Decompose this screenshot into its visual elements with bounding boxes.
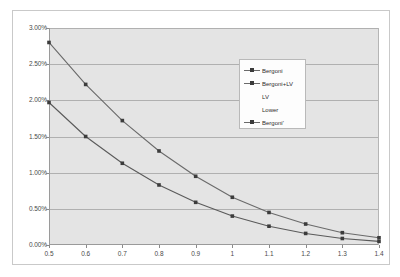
legend-item[interactable]: Bergoni+LV: [244, 77, 301, 90]
data-point-marker: [47, 101, 51, 105]
data-point-marker: [377, 240, 381, 244]
data-point-marker: [304, 222, 308, 226]
y-axis-tick-label: 2.50%: [13, 61, 47, 68]
data-point-marker: [377, 236, 381, 240]
x-axis-tick-mark: [379, 245, 380, 248]
series-line: [49, 103, 379, 242]
plot-area: [49, 28, 379, 245]
data-point-marker: [121, 161, 125, 165]
data-point-marker: [194, 201, 198, 205]
legend-item-label: Lower: [262, 107, 278, 113]
data-point-marker: [267, 224, 271, 228]
chart-card: 0.00%0.50%1.00%1.50%2.00%2.50%3.00% 0.50…: [12, 10, 390, 265]
legend-item-label: Bergoni+LV: [262, 81, 293, 87]
x-axis-tick-mark: [122, 245, 123, 248]
legend-marker-icon: [244, 79, 260, 88]
legend-marker-icon: [244, 66, 260, 75]
legend-item[interactable]: LV: [244, 90, 301, 103]
screenshot-root: 0.00%0.50%1.00%1.50%2.00%2.50%3.00% 0.50…: [0, 0, 400, 277]
data-point-marker: [341, 231, 345, 235]
legend-item[interactable]: Bergoni: [244, 64, 301, 77]
data-point-marker: [304, 232, 308, 236]
x-axis-tick-mark: [342, 245, 343, 248]
data-point-marker: [194, 174, 198, 178]
x-axis-tick-label: 1.2: [291, 251, 321, 258]
data-point-marker: [231, 195, 235, 199]
x-axis-tick-label: 0.7: [107, 251, 137, 258]
data-point-marker: [84, 83, 88, 87]
data-point-marker: [341, 237, 345, 241]
legend-marker-icon: [244, 118, 260, 127]
legend-item-label: LV: [262, 94, 269, 100]
x-axis-tick-label: 0.5: [34, 251, 64, 258]
x-axis-tick-mark: [86, 245, 87, 248]
x-axis-tick-label: 0.8: [144, 251, 174, 258]
x-axis-tick-label: 1.1: [254, 251, 284, 258]
data-series-lines: [49, 28, 379, 245]
x-axis-tick-label: 1.3: [327, 251, 357, 258]
y-axis-tick-label: 0.50%: [13, 206, 47, 213]
x-axis-tick-label: 0.9: [181, 251, 211, 258]
x-axis-tick-mark: [196, 245, 197, 248]
x-axis-tick-mark: [232, 245, 233, 248]
data-point-marker: [267, 211, 271, 215]
y-axis-tick-label: 1.00%: [13, 170, 47, 177]
y-axis-tick-label: 3.00%: [13, 25, 47, 32]
data-point-marker: [157, 183, 161, 187]
data-point-marker: [121, 119, 125, 123]
x-axis-tick-label: 0.6: [71, 251, 101, 258]
series-line: [49, 42, 379, 237]
data-point-marker: [47, 41, 51, 45]
legend-item-label: Bergoni': [262, 120, 284, 126]
x-axis-tick-mark: [269, 245, 270, 248]
x-axis-tick-mark: [49, 245, 50, 248]
data-point-marker: [231, 214, 235, 218]
data-point-marker: [157, 149, 161, 153]
legend-item-label: Bergoni: [262, 68, 283, 74]
legend-item[interactable]: Lower: [244, 103, 301, 116]
x-axis-tick-label: 1: [217, 251, 247, 258]
y-axis-tick-label: 0.00%: [13, 242, 47, 249]
legend-item[interactable]: Bergoni': [244, 116, 301, 129]
chart-legend: BergoniBergoni+LVLVLowerBergoni': [239, 59, 306, 129]
y-axis-tick-label: 2.00%: [13, 97, 47, 104]
x-axis-tick-mark: [159, 245, 160, 248]
data-point-marker: [84, 135, 88, 139]
x-axis-tick-label: 1.4: [364, 251, 394, 258]
y-axis-tick-label: 1.50%: [13, 134, 47, 141]
x-axis-tick-mark: [306, 245, 307, 248]
